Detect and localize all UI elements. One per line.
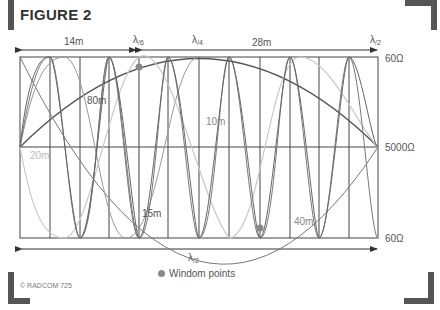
- fraction: /2: [193, 257, 199, 264]
- label-5000ohm: 5000Ω: [385, 142, 415, 153]
- windom-dot-icon: [158, 270, 165, 277]
- fraction: /2: [375, 39, 381, 46]
- windom-point-2: [257, 225, 264, 232]
- label-lambda-2-top: λ/2: [370, 34, 381, 46]
- copyright: © RADCOM 725: [20, 282, 72, 289]
- label-80m: 80m: [87, 95, 106, 106]
- fraction: /4: [197, 39, 203, 46]
- label-60ohm-bottom: 60Ω: [385, 233, 404, 244]
- label-lambda-2-bottom: λ/2: [188, 252, 199, 264]
- label-28m: 28m: [252, 37, 271, 48]
- legend: Windom points: [158, 268, 235, 279]
- legend-label: Windom points: [169, 268, 235, 279]
- label-40m: 40m: [294, 216, 313, 227]
- label-60ohm-top: 60Ω: [385, 53, 404, 64]
- label-lambda-4: λ/4: [192, 34, 203, 46]
- label-15m: 15m: [142, 208, 161, 219]
- label-10m: 10m: [206, 116, 225, 127]
- label-lambda-6: λ/6: [133, 34, 144, 46]
- label-20m: 20m: [30, 150, 49, 161]
- label-14m: 14m: [64, 36, 83, 47]
- fraction: /6: [138, 39, 144, 46]
- windom-point-1: [136, 64, 143, 71]
